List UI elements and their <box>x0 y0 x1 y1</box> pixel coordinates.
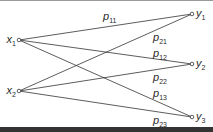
node-x1 <box>17 38 21 42</box>
node-label-x1: x1 <box>6 33 17 47</box>
edge-label-p23: p23 <box>152 114 167 128</box>
edge-label-p11: p11 <box>102 10 116 24</box>
edge-label-p22: p22 <box>152 71 167 85</box>
node-label-y3: y3 <box>195 110 206 124</box>
edge-label-p21: p21 <box>152 31 167 45</box>
node-x2 <box>17 89 21 93</box>
bottom-border <box>0 127 213 132</box>
transition-graph: p11p21p12p22p13p23x1x2y1y2y3 <box>0 0 213 132</box>
edge-label-p12: p12 <box>152 47 167 61</box>
node-label-y2: y2 <box>195 57 206 71</box>
edge-label-p13: p13 <box>152 87 167 101</box>
node-label-y1: y1 <box>195 7 206 21</box>
diagram-frame: p11p21p12p22p13p23x1x2y1y2y3 <box>0 0 213 132</box>
node-label-x2: x2 <box>6 84 17 98</box>
node-y1 <box>190 12 194 16</box>
node-y3 <box>190 115 194 119</box>
node-y2 <box>190 62 194 66</box>
